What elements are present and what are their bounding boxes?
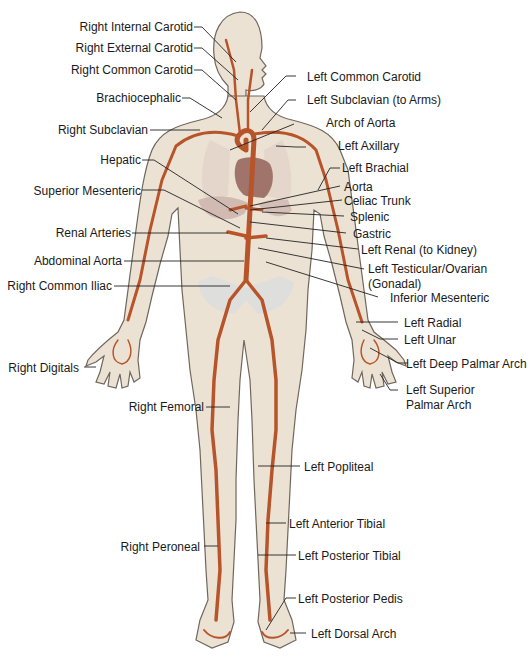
label-hepatic: Hepatic xyxy=(100,153,141,167)
label-renal-arteries: Renal Arteries xyxy=(56,226,131,240)
label-left-posterior-tibial: Left Posterior Tibial xyxy=(298,549,401,563)
label-right-peroneal: Right Peroneal xyxy=(121,540,200,554)
label-brachiocephalic: Brachiocephalic xyxy=(96,91,181,105)
label-left-posterior-pedis: Left Posterior Pedis xyxy=(298,592,403,606)
label-left-superior: Left Superior xyxy=(406,383,475,397)
label-aorta: Aorta xyxy=(344,180,373,194)
label-right-common-iliac: Right Common Iliac xyxy=(7,279,112,293)
label-right-common-carotid: Right Common Carotid xyxy=(71,63,193,77)
label-gonadal: (Gonadal) xyxy=(368,277,421,291)
label-left-deep-palmar-arch: Left Deep Palmar Arch xyxy=(406,357,527,371)
label-left-ulnar: Left Ulnar xyxy=(404,333,456,347)
label-left-popliteal: Left Popliteal xyxy=(304,460,373,474)
label-inferior-mesenteric: Inferior Mesenteric xyxy=(390,291,489,305)
label-right-subclavian: Right Subclavian xyxy=(58,123,148,137)
label-gastric: Gastric xyxy=(353,227,391,241)
label-palmar-arch: Palmar Arch xyxy=(406,398,471,412)
label-right-femoral: Right Femoral xyxy=(129,400,204,414)
label-left-subclavian: Left Subclavian (to Arms) xyxy=(307,93,441,107)
label-right-external-carotid: Right External Carotid xyxy=(76,41,193,55)
label-celiac-trunk: Celiac Trunk xyxy=(344,194,411,208)
label-abdominal-aorta: Abdominal Aorta xyxy=(34,254,122,268)
label-right-digitals: Right Digitals xyxy=(8,361,79,375)
label-arch-of-aorta: Arch of Aorta xyxy=(326,116,395,130)
label-left-common-carotid: Left Common Carotid xyxy=(307,70,421,84)
label-left-anterior-tibial: Left Anterior Tibial xyxy=(289,517,385,531)
label-left-brachial: Left Brachial xyxy=(342,161,409,175)
label-right-internal-carotid: Right Internal Carotid xyxy=(80,20,193,34)
label-splenic: Splenic xyxy=(350,210,389,224)
label-left-radial: Left Radial xyxy=(404,316,461,330)
label-left-testicular-ovarian: Left Testicular/Ovarian xyxy=(368,262,487,276)
label-left-dorsal-arch: Left Dorsal Arch xyxy=(311,627,396,641)
label-left-axillary: Left Axillary xyxy=(338,139,399,153)
label-left-renal: Left Renal (to Kidney) xyxy=(361,243,477,257)
label-superior-mesenteric: Superior Mesenteric xyxy=(34,184,141,198)
